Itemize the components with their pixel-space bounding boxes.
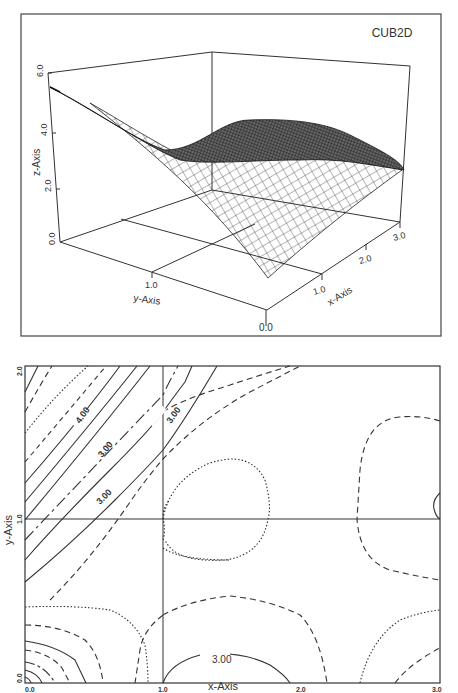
x-tick-3-3d: 3.0	[392, 230, 407, 243]
contour-y-tick-2: 2.0	[16, 366, 23, 376]
x-tick-1-3d: 1.0	[312, 284, 327, 297]
figure: CUB2D	[0, 0, 458, 693]
contour-plot-panel: 4.00 3.00 3.00 3.00 3.00 0.0 1.0 2.0 3.0…	[2, 366, 442, 693]
contour-label-300-bottom: 3.00	[212, 654, 232, 665]
z-tick-0: 0.0	[47, 232, 57, 245]
y-tick-1: 1.0	[145, 280, 158, 290]
contour-y-tick-1: 1.0	[16, 514, 23, 524]
contour-x-tick-3: 3.0	[432, 686, 442, 693]
contour-label-300-top: 3.00	[164, 405, 182, 425]
x-axis-label-3d: x-Axis	[325, 284, 354, 308]
x-tick-2-3d: 2.0	[358, 253, 373, 266]
surface-title: CUB2D	[372, 26, 413, 40]
contour-x-axis-label: x-Axis	[208, 680, 238, 692]
surface-mesh	[50, 87, 404, 278]
origin-label: 0.0	[259, 322, 273, 333]
z-tick-4: 4.0	[39, 123, 49, 136]
z-axis-label: z-Axis	[31, 149, 42, 176]
contour-x-tick-0: 0.0	[25, 686, 35, 693]
z-tick-6: 6.0	[35, 64, 45, 77]
y-axis-label-3d: y-Axis	[133, 292, 162, 307]
contour-x-tick-2: 2.0	[296, 686, 306, 693]
contour-y-tick-0: 0.0	[16, 673, 23, 683]
contour-label-400: 4.00	[73, 405, 91, 425]
surface-plot-panel: CUB2D	[21, 14, 441, 336]
z-tick-2: 2.0	[43, 179, 53, 192]
contour-x-tick-1: 1.0	[158, 686, 168, 693]
contour-y-axis-label: y-Axis	[2, 515, 14, 545]
